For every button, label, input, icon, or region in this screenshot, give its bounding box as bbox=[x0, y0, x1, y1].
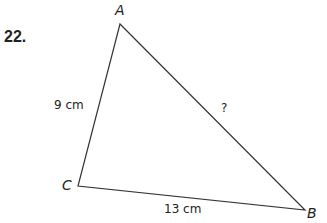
triangle-abc bbox=[78, 24, 305, 210]
side-cb-length: 13 cm bbox=[164, 202, 201, 216]
triangle-diagram bbox=[0, 0, 327, 223]
side-ab-unknown: ? bbox=[221, 101, 227, 115]
vertex-b-label: B bbox=[307, 205, 317, 221]
vertex-a-label: A bbox=[115, 2, 125, 18]
vertex-c-label: C bbox=[62, 177, 72, 193]
side-ac-length: 9 cm bbox=[54, 98, 84, 112]
